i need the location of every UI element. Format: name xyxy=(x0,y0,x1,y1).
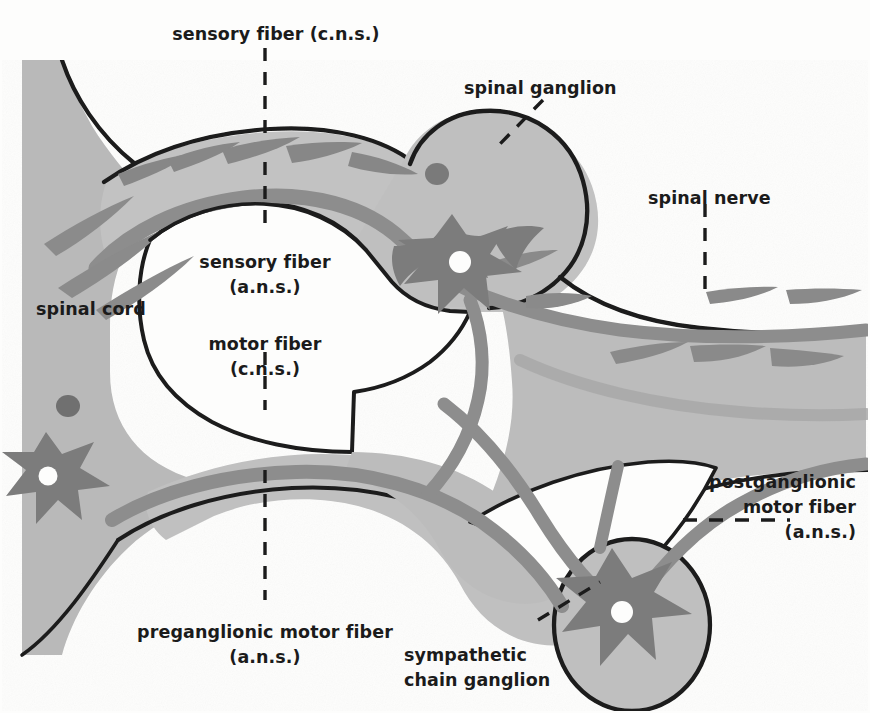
label-postganglionic-line2: motor fiber xyxy=(709,495,856,520)
label-motor-fiber-cns-line1: motor fiber xyxy=(208,332,321,357)
label-motor-fiber-cns: motor fiber (c.n.s.) xyxy=(208,332,321,382)
sensory-neuron-nucleus xyxy=(449,251,471,273)
label-spinal-cord: spinal cord xyxy=(36,297,146,322)
label-spinal-ganglion: spinal ganglion xyxy=(464,76,617,101)
label-spinal-nerve: spinal nerve xyxy=(648,186,771,211)
ganglion-neuron-nucleus xyxy=(425,163,449,185)
label-sensory-fiber-ans-line2: (a.n.s.) xyxy=(199,275,330,300)
label-preganglionic-motor-fiber-ans: preganglionic motor fiber (a.n.s.) xyxy=(137,620,393,670)
label-motor-fiber-cns-line2: (c.n.s.) xyxy=(208,357,321,382)
cord-neuron-nucleus xyxy=(56,395,80,417)
label-postganglionic-line1: postganglionic xyxy=(709,470,856,495)
label-sensory-fiber-ans: sensory fiber (a.n.s.) xyxy=(199,250,330,300)
postganglionic-neuron-nucleus xyxy=(611,601,633,623)
label-sympathetic-chain-ganglion: sympathetic chain ganglion xyxy=(404,643,550,693)
label-postganglionic-line3: (a.n.s.) xyxy=(709,520,856,545)
label-sensory-fiber-ans-line1: sensory fiber xyxy=(199,250,330,275)
label-preganglionic-line2: (a.n.s.) xyxy=(137,645,393,670)
label-preganglionic-line1: preganglionic motor fiber xyxy=(137,620,393,645)
label-sympathetic-line2: chain ganglion xyxy=(404,668,550,693)
label-sensory-fiber-cns: sensory fiber (c.n.s.) xyxy=(172,22,379,47)
motor-neuron-nucleus xyxy=(39,467,58,486)
spinal-nerve-diagram xyxy=(0,0,870,713)
figure-canvas: sensory fiber (c.n.s.) spinal ganglion s… xyxy=(0,0,870,713)
label-sympathetic-line1: sympathetic xyxy=(404,643,550,668)
label-postganglionic-motor-fiber-ans: postganglionic motor fiber (a.n.s.) xyxy=(709,470,856,545)
